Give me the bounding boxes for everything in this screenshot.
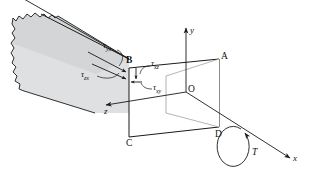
tau-yx-label: τyx bbox=[103, 41, 111, 52]
z-axis-label: z bbox=[104, 107, 108, 116]
torsion-shear-stress-figure: B A C D O y x z T τyx τzx τxz τxy bbox=[0, 0, 309, 179]
tau-xy-subscript: xy bbox=[156, 88, 161, 94]
vertex-label-c: C bbox=[126, 139, 132, 149]
vertex-label-b: B bbox=[126, 56, 132, 66]
tau-zx-subscript: zx bbox=[84, 75, 89, 81]
tau-xz-label: τxz bbox=[151, 59, 159, 70]
y-axis-label: y bbox=[190, 26, 194, 35]
vertex-label-o: O bbox=[188, 85, 195, 95]
tau-xy-label: τxy bbox=[153, 83, 161, 94]
torque-label: T bbox=[252, 148, 257, 158]
vertex-label-a: A bbox=[221, 52, 228, 62]
x-axis-label: x bbox=[293, 154, 297, 163]
tau-yx-subscript: yx bbox=[106, 46, 111, 52]
tau-xz-subscript: xz bbox=[154, 64, 159, 70]
tau-zx-label: τzx bbox=[81, 70, 89, 81]
vertex-label-d: D bbox=[215, 130, 222, 140]
